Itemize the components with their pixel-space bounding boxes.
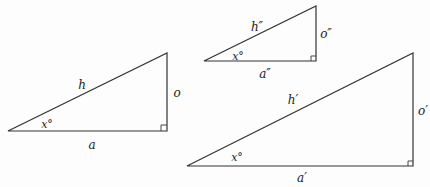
label-hypotenuse-h-double-prime: h″ [251,21,263,33]
similar-triangles-diagram: h o x° a h″ o″ x° a″ h′ o′ x° a′ [0,0,430,187]
right-angle-marker [408,161,413,166]
triangle-prime-outline [187,53,413,166]
label-opposite-o: o [173,87,180,99]
label-angle-x: x° [41,119,53,130]
right-angle-marker [311,56,316,61]
label-adjacent-a-double-prime: a″ [259,68,271,80]
label-hypotenuse-h-prime: h′ [288,94,298,106]
label-adjacent-a-prime: a′ [297,172,307,184]
label-angle-x-double-prime: x° [232,51,244,62]
triangle-a [8,53,167,131]
label-opposite-o-double-prime: o″ [320,28,332,40]
label-angle-x-prime: x° [231,152,243,163]
label-adjacent-a: a [88,139,95,151]
right-angle-marker [161,125,167,131]
triangle-prime [187,53,413,166]
triangle-a-outline [8,53,167,131]
triangles-svg [0,0,430,187]
label-hypotenuse-h: h [78,79,86,91]
label-opposite-o-prime: o′ [418,105,428,117]
